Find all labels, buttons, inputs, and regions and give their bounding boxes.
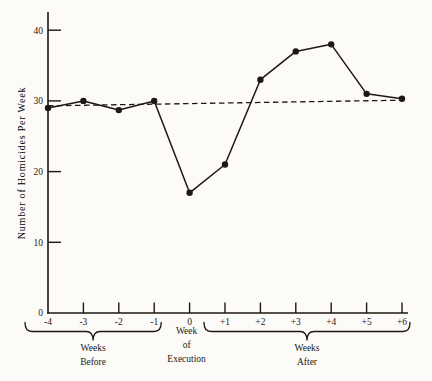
weeks-after-label: After bbox=[297, 357, 318, 367]
weeks-after-brace bbox=[204, 323, 410, 341]
weeks-before-label: Weeks bbox=[81, 343, 106, 353]
data-point-week-+4 bbox=[328, 41, 334, 47]
x-tick-label: -1 bbox=[150, 317, 158, 327]
x-tick-label: +2 bbox=[255, 317, 265, 327]
x-tick-label: +1 bbox=[220, 317, 230, 327]
execution-homicides-figure: Number of Homicides Per Week 010203040-4… bbox=[0, 0, 432, 381]
data-point-week-+3 bbox=[293, 48, 299, 54]
y-tick-label: 0 bbox=[38, 308, 43, 318]
y-tick-label: 10 bbox=[34, 238, 44, 248]
data-point-week--1 bbox=[151, 98, 157, 104]
data-point-week--2 bbox=[116, 107, 122, 113]
x-tick-label: +3 bbox=[291, 317, 301, 327]
data-point-week-+6 bbox=[399, 96, 405, 102]
homicides-line bbox=[48, 44, 402, 192]
x-tick-label: +5 bbox=[362, 317, 372, 327]
chart-canvas: Number of Homicides Per Week 010203040-4… bbox=[0, 0, 432, 381]
week-of-execution-label: Execution bbox=[167, 354, 206, 364]
data-point-week-+1 bbox=[222, 161, 228, 167]
data-point-week-+5 bbox=[363, 91, 369, 97]
y-tick-label: 40 bbox=[34, 26, 44, 36]
weeks-before-label: Before bbox=[80, 357, 106, 367]
data-point-week--4 bbox=[45, 105, 51, 111]
y-tick-label: 20 bbox=[34, 167, 44, 177]
data-point-week-+2 bbox=[257, 76, 263, 82]
data-point-week--3 bbox=[80, 98, 86, 104]
x-tick-label: +6 bbox=[397, 317, 407, 327]
x-tick-label: -3 bbox=[79, 317, 87, 327]
weeks-after-label: Weeks bbox=[294, 343, 319, 353]
x-tick-label: -2 bbox=[115, 317, 123, 327]
week-of-execution-label: of bbox=[183, 340, 192, 350]
y-tick-label: 30 bbox=[34, 96, 44, 106]
y-axis-title: Number of Homicides Per Week bbox=[16, 87, 27, 240]
x-tick-label: -4 bbox=[44, 317, 52, 327]
x-tick-label: +4 bbox=[326, 317, 336, 327]
data-point-week-0 bbox=[186, 190, 192, 196]
week-of-execution-label: Week bbox=[176, 326, 198, 336]
